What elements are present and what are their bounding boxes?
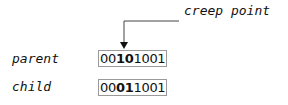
parent-label: parent — [12, 51, 59, 66]
child-label: child — [12, 79, 51, 94]
parent-bitstring: 00101001 — [98, 50, 167, 67]
child-bits-highlight: 01 — [116, 80, 134, 95]
parent-bits-highlight: 10 — [116, 51, 134, 66]
parent-bits-suffix: 1001 — [133, 51, 165, 66]
child-bits-suffix: 1001 — [133, 80, 165, 95]
parent-bits-prefix: 00 — [100, 51, 116, 66]
child-bits-prefix: 00 — [100, 80, 116, 95]
child-bitstring: 00011001 — [98, 79, 167, 96]
